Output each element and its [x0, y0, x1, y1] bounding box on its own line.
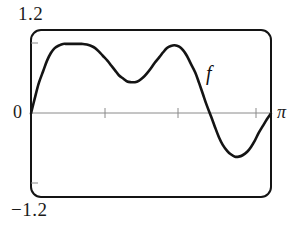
curve-label-f: f [206, 62, 212, 85]
function-curve [31, 44, 271, 157]
y-min-label: −1.2 [11, 200, 47, 219]
function-graph-figure: 1.2 −1.2 0 π f [0, 0, 304, 230]
origin-label: 0 [13, 103, 23, 121]
y-max-label: 1.2 [18, 4, 43, 23]
plot-canvas [0, 0, 304, 230]
x-max-pi-label: π [277, 103, 287, 121]
